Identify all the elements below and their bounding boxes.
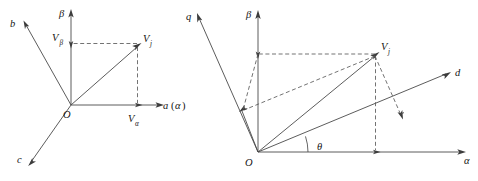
- right-alpha-axis: [258, 149, 466, 154]
- left-v-beta-label: V β: [52, 32, 64, 47]
- left-a-axis-paren-close: ): [182, 100, 186, 112]
- right-q-axis: [197, 13, 258, 152]
- left-vector-vj-arrowhead: [132, 43, 141, 50]
- right-origin-label: O: [245, 157, 253, 168]
- right-vector-vj-label: V j: [381, 41, 390, 56]
- right-diagram-group: q β d α O θ V j: [186, 9, 470, 168]
- left-c-axis-arrowhead: [28, 158, 36, 166]
- left-b-axis-arrowhead: [24, 21, 30, 30]
- left-origin-label: O: [63, 109, 71, 120]
- left-b-axis: [24, 21, 72, 106]
- right-projection-d-dashed: [375, 56, 401, 114]
- right-d-axis: [258, 72, 451, 152]
- right-theta-arc: [306, 136, 309, 152]
- left-vector-vj-label: V j: [143, 33, 152, 48]
- svg-text:j: j: [387, 48, 390, 56]
- left-v-alpha-label: V α: [128, 113, 139, 128]
- left-vector-vj: [71, 43, 142, 105]
- right-d-axis-label: d: [455, 67, 461, 78]
- left-b-axis-label: b: [10, 18, 15, 29]
- left-a-axis: [71, 102, 164, 107]
- left-diagram-group: b c β a ( α ) O V β V α V j: [10, 8, 186, 166]
- right-alpha-axis-label: α: [464, 155, 470, 166]
- right-projection-q-dashed: [244, 56, 375, 110]
- right-theta-label: θ: [317, 141, 322, 152]
- right-d-component-arrowhead: [398, 110, 404, 119]
- right-q-foot-to-origin: [242, 111, 258, 152]
- svg-text:β: β: [59, 39, 64, 47]
- right-vector-vj: [258, 52, 380, 152]
- vector-diagram-svg: b c β a ( α ) O V β V α V j: [0, 0, 478, 181]
- right-parallelogram-edge-dashed: [243, 54, 258, 110]
- left-beta-axis: [68, 9, 73, 105]
- right-beta-axis-label: β: [245, 9, 252, 20]
- svg-text:α: α: [135, 120, 139, 128]
- figure-root: b c β a ( α ) O V β V α V j: [0, 0, 478, 181]
- right-beta-axis: [255, 10, 260, 152]
- svg-text:j: j: [149, 40, 152, 48]
- left-c-axis-label: c: [17, 154, 22, 165]
- right-q-axis-arrowhead: [197, 13, 202, 22]
- left-a-axis-alpha-label: α: [175, 100, 181, 111]
- right-q-axis-label: q: [186, 11, 191, 22]
- left-a-axis-label: a: [163, 100, 168, 111]
- left-beta-axis-label: β: [58, 8, 65, 19]
